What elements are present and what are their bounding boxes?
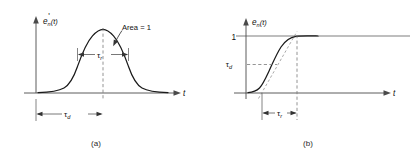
panel-b-x-axis (234, 90, 391, 96)
panel-b-x-axis-label: t (393, 89, 396, 98)
panel-a-y-axis-label: en(t) (43, 17, 58, 27)
panel-a-pulse-curve (38, 29, 168, 92)
panel-a-area-leader (113, 31, 122, 47)
figure-container: en(t) ' t Area = 1 τr τd (a) (0, 0, 420, 156)
panel-b: en(t) t 1 τd τr (b) (226, 18, 410, 148)
panel-a-y-label-arg: (t) (51, 17, 59, 26)
panel-a-x-axis (24, 90, 181, 96)
panel-a-tau-r-label: τr (97, 51, 103, 61)
panel-a-area-label: Area = 1 (122, 23, 151, 32)
panel-b-tangent-line (259, 32, 298, 99)
panel-a-y-axis (33, 16, 39, 93)
panel-a-caption: (a) (91, 139, 101, 148)
panel-a-tau-d-label: τd (64, 110, 71, 120)
panel-a: en(t) ' t Area = 1 τr τd (a) (24, 12, 186, 149)
panel-b-tau-d-label: τd (226, 60, 233, 70)
panel-b-y-axis-label: en(t) (252, 18, 267, 28)
panel-b-tau-r-label: τr (277, 109, 283, 119)
panel-b-caption: (b) (303, 139, 313, 148)
panel-a-x-axis-label: t (183, 89, 186, 98)
panel-b-unity-label: 1 (231, 33, 236, 42)
panel-b-y-axis (243, 18, 249, 99)
figure-svg: en(t) ' t Area = 1 τr τd (a) (0, 0, 420, 156)
panel-b-y-label-arg: (t) (260, 18, 268, 27)
